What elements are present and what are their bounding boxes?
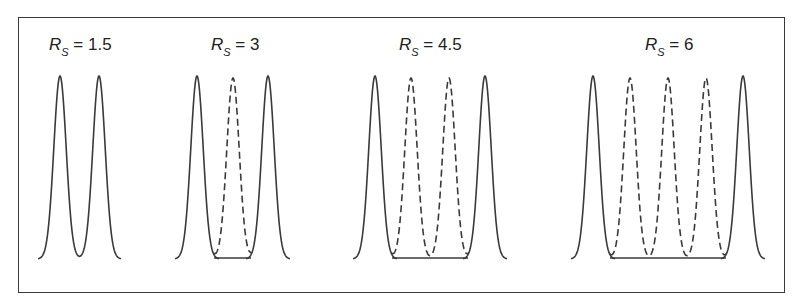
panel-4-dashed-peaks <box>610 78 726 256</box>
panel-3-solid-peak-1 <box>353 76 397 259</box>
panel-3-dashed-peaks <box>392 78 468 256</box>
panel-2-solid-peak-2 <box>246 76 290 259</box>
panel-4-solid-peak-1 <box>571 76 615 259</box>
panel-1-peaks <box>38 76 121 259</box>
chromatogram-plot <box>0 0 803 307</box>
panel-2-dashed-peaks <box>214 78 251 254</box>
panel-3-solid-peak-2 <box>463 76 507 259</box>
panel-4-solid-peak-2 <box>721 76 765 259</box>
panel-2-solid-peak-1 <box>175 76 219 259</box>
